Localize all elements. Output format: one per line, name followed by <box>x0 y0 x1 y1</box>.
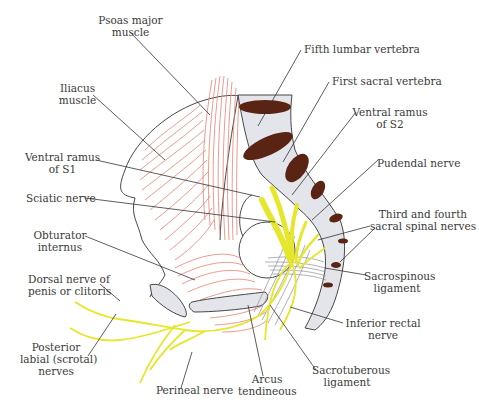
leader-posterior-labial <box>88 314 116 356</box>
label-line: ligament <box>312 376 382 388</box>
label-obturator-internus: Obturator internus <box>30 229 90 253</box>
label-line: labial (scrotal) <box>20 353 92 365</box>
label-fifth-lumbar-vertebra: Fifth lumbar vertebra <box>304 43 420 55</box>
label-line: Ventral ramus <box>350 106 430 118</box>
label-inferior-rectal-nerve: Inferior rectal nerve <box>343 317 423 341</box>
label-line: nerve <box>343 329 423 341</box>
leader-sciatic <box>85 198 275 222</box>
leader-ventral-s1 <box>96 160 260 197</box>
label-dorsal-nerve: Dorsal nerve of penis or clitoris <box>28 273 104 297</box>
l5-disc <box>239 100 291 114</box>
label-arcus-tendineous: Arcus tendineous <box>238 373 296 397</box>
label-sacrotuberous-ligament: Sacrotuberous ligament <box>312 364 382 388</box>
label-third-fourth-sacral-nerves: Third and fourth sacral spinal nerves <box>369 208 477 232</box>
label-line: Fifth lumbar vertebra <box>304 43 420 55</box>
label-line: Iliacus <box>50 82 105 94</box>
label-sacrospinous-ligament: Sacrospinous ligament <box>364 270 430 294</box>
label-psoas-major-muscle: Psoas major muscle <box>78 14 183 38</box>
label-line: tendineous <box>238 385 296 397</box>
label-line: Sacrospinous <box>364 270 430 282</box>
label-line: of S2 <box>350 118 430 130</box>
label-first-sacral-vertebra: First sacral vertebra <box>332 75 442 87</box>
label-line: Sciatic nerve <box>26 192 96 204</box>
leader-sacrotuberous <box>270 305 316 370</box>
label-line: Third and fourth <box>369 208 477 220</box>
label-line: Arcus <box>238 373 296 385</box>
anatomy-figure: Psoas major muscle Iliacus muscle Ventra… <box>0 0 479 416</box>
label-sciatic-nerve: Sciatic nerve <box>26 192 96 204</box>
label-iliacus-muscle: Iliacus muscle <box>50 82 105 106</box>
label-line: Perineal nerve <box>156 384 233 396</box>
label-line: sacral spinal nerves <box>369 220 477 232</box>
label-line: Dorsal nerve of <box>28 273 104 285</box>
label-line: Sacrotuberous <box>312 364 382 376</box>
label-line: ligament <box>364 282 430 294</box>
label-pudendal-nerve: Pudendal nerve <box>377 157 460 169</box>
label-line: nerves <box>20 365 92 377</box>
leader-psoas <box>130 32 210 115</box>
label-ventral-ramus-s1: Ventral ramus of S1 <box>25 151 100 175</box>
label-ventral-ramus-s2: Ventral ramus of S2 <box>350 106 430 130</box>
label-line: Inferior rectal <box>343 317 423 329</box>
label-perineal-nerve: Perineal nerve <box>156 384 233 396</box>
leader-perineal <box>181 352 192 388</box>
label-line: First sacral vertebra <box>332 75 442 87</box>
label-line: Obturator <box>30 229 90 241</box>
pubic-bones <box>150 284 268 317</box>
label-line: penis or clitoris <box>28 285 104 297</box>
label-line: muscle <box>78 26 183 38</box>
s5-disc <box>338 239 348 244</box>
label-line: Pudendal nerve <box>377 157 460 169</box>
leader-third-fourth-b <box>340 228 375 262</box>
label-line: of S1 <box>25 163 100 175</box>
label-line: internus <box>30 241 90 253</box>
label-line: muscle <box>50 94 105 106</box>
label-posterior-labial-nerves: Posterior labial (scrotal) nerves <box>20 341 92 377</box>
coccyx-1 <box>331 262 341 268</box>
label-line: Ventral ramus <box>25 151 100 163</box>
label-line: Posterior <box>20 341 92 353</box>
leader-arcus <box>248 305 263 376</box>
coccyx-2 <box>323 283 333 288</box>
label-line: Psoas major <box>78 14 183 26</box>
